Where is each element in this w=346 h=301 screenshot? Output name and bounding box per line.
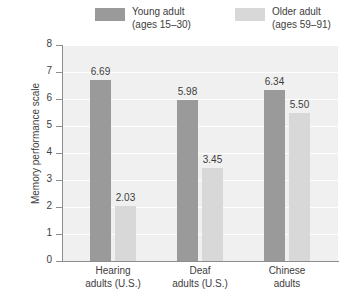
y-axis-tick-label: 7 (36, 65, 52, 76)
y-axis-tick-label: 1 (36, 227, 52, 238)
y-axis-tick-label: 2 (36, 200, 52, 211)
bar-young-adult (90, 80, 111, 261)
x-axis-category-label: Chineseadults (232, 265, 342, 290)
y-axis-tick-label: 3 (36, 173, 52, 184)
category-line: adults (U.S.) (85, 278, 141, 289)
y-axis-tick-label: 8 (36, 38, 52, 49)
y-axis-tick-mark (56, 180, 62, 181)
legend-item-older-adult: Older adult (ages 59–91) (235, 6, 331, 31)
bar-young-adult (264, 90, 285, 261)
legend-label-older-adult-subtitle: (ages 59–91) (272, 19, 331, 30)
category-line: adults (U.S.) (172, 278, 228, 289)
y-axis-tick-mark (56, 153, 62, 154)
bar-value-label: 3.45 (193, 154, 233, 165)
category-line: Hearing (95, 265, 130, 276)
bar-older-adult (202, 168, 223, 261)
bar-older-adult (289, 113, 310, 262)
bar-value-label: 2.03 (106, 192, 146, 203)
legend-label-young-adult-name: Young adult (132, 6, 184, 17)
y-axis-tick-label: 0 (36, 254, 52, 265)
y-axis-tick-label: 4 (36, 146, 52, 157)
bar-value-label: 5.50 (280, 99, 320, 110)
legend-swatch-older-adult (235, 8, 265, 21)
bar-value-label: 6.69 (81, 66, 121, 77)
y-axis-tick-mark (56, 234, 62, 235)
y-axis-line (62, 45, 63, 262)
y-axis-tick-mark (56, 126, 62, 127)
x-axis-line (62, 261, 339, 262)
legend-label-young-adult: Young adult (ages 15–30) (132, 6, 191, 31)
y-axis-tick-mark (56, 72, 62, 73)
legend-swatch-young-adult (95, 8, 125, 21)
y-axis-tick-mark (56, 207, 62, 208)
category-line: Chinese (269, 265, 306, 276)
y-axis-tick-mark (56, 261, 62, 262)
y-axis-tick-label: 6 (36, 92, 52, 103)
bar-older-adult (115, 206, 136, 261)
legend-label-older-adult: Older adult (ages 59–91) (272, 6, 331, 31)
gridline (63, 45, 338, 46)
legend-label-older-adult-name: Older adult (272, 6, 321, 17)
bar-value-label: 5.98 (168, 86, 208, 97)
legend-label-young-adult-subtitle: (ages 15–30) (132, 19, 191, 30)
bar-value-label: 6.34 (255, 76, 295, 87)
y-axis-tick-mark (56, 45, 62, 46)
y-axis-tick-label: 5 (36, 119, 52, 130)
bar-young-adult (177, 100, 198, 261)
legend-item-young-adult: Young adult (ages 15–30) (95, 6, 191, 31)
category-line: adults (274, 278, 301, 289)
category-line: Deaf (189, 265, 210, 276)
chart-legend: Young adult (ages 15–30) Older adult (ag… (95, 6, 340, 38)
y-axis-tick-mark (56, 99, 62, 100)
